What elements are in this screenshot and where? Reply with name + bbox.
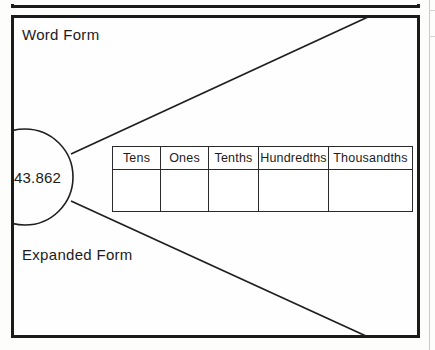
adjacent-panel-divider-top [429,10,435,11]
adjacent-panel-edge [429,0,435,350]
table-row [113,170,413,212]
answer-cell-ones[interactable] [161,170,209,212]
answer-cell-hundredths[interactable] [259,170,329,212]
worksheet-page: 43.862 Word Form Expanded Form Tens Ones… [0,0,435,350]
answer-cell-thousandths[interactable] [329,170,413,212]
word-form-label: Word Form [22,26,99,43]
column-header-tenths: Tenths [209,147,259,170]
place-value-table: Tens Ones Tenths Hundredths Thousandths [112,146,413,212]
table-header-row: Tens Ones Tenths Hundredths Thousandths [113,147,413,170]
answer-cell-tens[interactable] [113,170,161,212]
column-header-ones: Ones [161,147,209,170]
column-header-hundredths: Hundredths [259,147,329,170]
adjacent-panel-divider-mid [429,36,435,37]
answer-cell-tenths[interactable] [209,170,259,212]
column-header-thousandths: Thousandths [329,147,413,170]
expanded-form-label: Expanded Form [22,246,133,263]
previous-exercise-box-edge [11,4,420,8]
column-header-tens: Tens [113,147,161,170]
decimal-number-value: 43.862 [14,169,61,186]
